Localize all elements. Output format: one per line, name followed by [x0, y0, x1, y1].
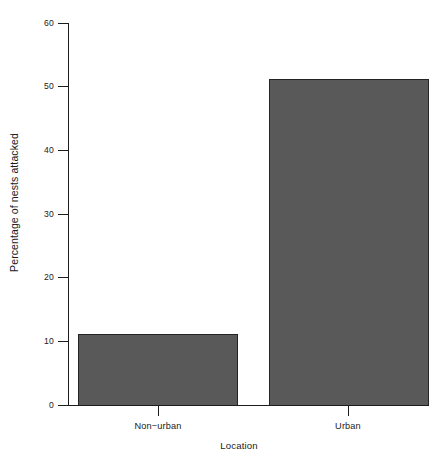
x-axis-title-wrap: Location — [0, 440, 442, 452]
bar-non-urban — [78, 334, 238, 406]
y-tick-mark-50 — [58, 86, 68, 87]
bar-chart: Percentage of nests attacked 60 50 40 30… — [0, 0, 442, 468]
y-axis-line — [68, 23, 69, 406]
y-tick-label-60: 60 — [24, 19, 54, 28]
y-tick-label-20: 20 — [24, 273, 54, 282]
x-tick-mark-urban — [348, 406, 349, 416]
y-tick-label-30: 30 — [24, 210, 54, 219]
y-tick-label-10: 10 — [24, 337, 54, 346]
y-tick-mark-10 — [58, 341, 68, 342]
y-tick-label-50: 50 — [24, 82, 54, 91]
y-tick-mark-0 — [58, 405, 68, 406]
y-tick-label-0: 0 — [24, 401, 54, 410]
y-tick-mark-40 — [58, 150, 68, 151]
y-axis-title: Percentage of nests attacked — [6, 0, 22, 405]
bar-urban — [269, 79, 429, 406]
y-tick-mark-30 — [58, 214, 68, 215]
x-axis-line — [68, 405, 429, 406]
x-tick-mark-non-urban — [158, 406, 159, 416]
x-tick-label-non-urban: Non−urban — [98, 421, 218, 432]
y-tick-mark-20 — [58, 277, 68, 278]
y-tick-label-40: 40 — [24, 146, 54, 155]
x-tick-label-urban: Urban — [288, 421, 408, 432]
y-tick-mark-60 — [58, 23, 68, 24]
x-axis-title: Location — [220, 440, 257, 451]
